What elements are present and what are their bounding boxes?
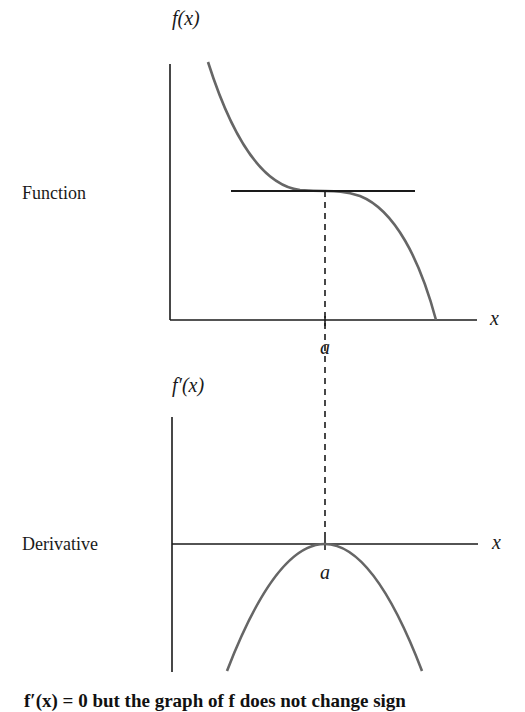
bottom-row-label: Derivative bbox=[22, 535, 98, 553]
bottom-y-axis-label: f′(x) bbox=[172, 375, 204, 395]
top-row-label: Function bbox=[22, 184, 86, 202]
top-a-label: a bbox=[320, 337, 330, 357]
bottom-x-axis-label: x bbox=[492, 532, 501, 552]
figure-caption-partial: f′(x) = 0 but the graph of f does not ch… bbox=[24, 690, 406, 712]
top-y-axis-label: f(x) bbox=[172, 8, 200, 28]
top-x-axis-label: x bbox=[490, 308, 499, 328]
bottom-a-label: a bbox=[320, 562, 330, 582]
